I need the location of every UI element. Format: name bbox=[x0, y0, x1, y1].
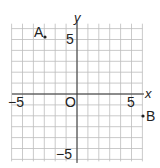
point-b-marker bbox=[141, 114, 144, 117]
point-b-label: B bbox=[146, 108, 155, 124]
x-axis-label: x bbox=[144, 86, 152, 101]
point-a-label: A bbox=[34, 24, 44, 40]
y-axis-label: y bbox=[73, 10, 82, 25]
x-tick-neg5: −5 bbox=[8, 94, 24, 110]
coordinate-plane: y x O −5 5 5 −5 A B bbox=[0, 0, 160, 168]
point-a-marker bbox=[43, 35, 46, 38]
x-tick-pos5: 5 bbox=[127, 94, 135, 110]
y-tick-pos5: 5 bbox=[66, 31, 74, 47]
y-tick-neg5: −5 bbox=[56, 146, 72, 162]
origin-label: O bbox=[65, 94, 76, 110]
